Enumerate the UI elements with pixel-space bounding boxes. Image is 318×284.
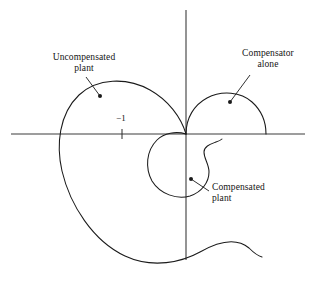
label-compensated-plant: Compensated plant <box>212 182 296 204</box>
label-compensator-alone: Compensator alone <box>224 48 312 70</box>
leader-dot-compensated-plant <box>189 177 193 181</box>
nyquist-figure: Uncompensated plant Compensator alone Co… <box>0 0 318 284</box>
leader-line-uncompensated-plant <box>86 77 100 96</box>
leader-dot-compensator-alone <box>228 100 232 104</box>
curve-compensator-alone <box>186 93 266 134</box>
curve-uncompensated-plant <box>59 81 262 263</box>
curve-compensated-plant <box>148 133 222 198</box>
label-uncompensated-plant: Uncompensated plant <box>36 52 132 74</box>
nyquist-plot-canvas <box>0 0 318 284</box>
leader-line-compensated-plant <box>191 179 209 191</box>
label-minus-one: −1 <box>110 113 132 124</box>
leader-dot-uncompensated-plant <box>98 94 102 98</box>
